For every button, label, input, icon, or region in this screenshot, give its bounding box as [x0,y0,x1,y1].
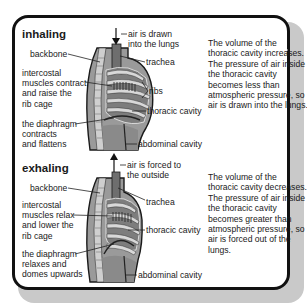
inhaling-thoracic-label: thoracic cavity [147,106,201,116]
inhaling-trachea-label: trachea [146,57,175,67]
inhaling-muscles-label: intercostal muscles contract and raise t… [22,68,86,109]
inhaling-diaphragm-label: the diaphragm contracts and flattens [22,119,77,150]
exhaling-abdominal-label: abdominal cavity [138,270,202,280]
exhaling-trachea-label: trachea [146,197,175,207]
exhaling-description: The volume of the thoracic cavity decrea… [208,172,307,255]
exhaling-muscles-label: intercostal muscles relax and lower the … [22,200,75,241]
inhaling-air-label: air is drawn into the lungs [128,29,179,49]
exhaling-backbone-label: backbone [30,183,67,193]
inhaling-description: The volume of the thoracic cavity increa… [208,38,307,111]
inhaling-abdominal-label: abdominal cavity [138,139,202,149]
inhaling-title: inhaling [22,28,66,40]
exhaling-title: exhaling [22,162,69,174]
exhaling-air-label: air is forced to the outside [127,160,181,180]
inhaling-backbone-label: backbone [30,49,67,59]
exhaling-diaphragm-label: the diaphragm relaxes and domes upwards [22,249,83,280]
inhaling-ribs-label: ribs [149,86,163,96]
exhaling-thoracic-label: thoracic cavity [146,225,200,235]
